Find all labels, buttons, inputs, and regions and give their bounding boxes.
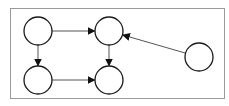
node-c <box>24 66 52 94</box>
node-d <box>95 66 123 94</box>
node-layer <box>24 17 213 94</box>
edge-e-to-b <box>123 35 186 53</box>
node-a <box>24 17 52 45</box>
directed-graph-diagram <box>0 0 229 106</box>
node-b <box>95 17 123 45</box>
node-e <box>185 43 213 71</box>
